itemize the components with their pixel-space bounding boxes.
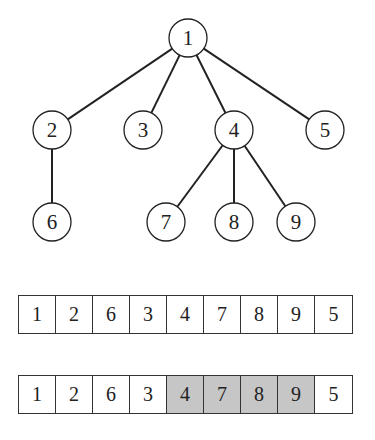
svg-text:1: 1: [183, 26, 194, 50]
array-cell: 9: [278, 376, 315, 413]
array-cell: 5: [315, 296, 352, 333]
array-cell: 3: [130, 296, 167, 333]
array-cell: 6: [93, 376, 130, 413]
tree-node-4: 4: [215, 111, 253, 149]
array-cell: 7: [204, 296, 241, 333]
array-cell: 3: [130, 376, 167, 413]
svg-text:9: 9: [291, 210, 302, 234]
array-cell: 1: [19, 376, 56, 413]
tree-edge: [196, 55, 225, 113]
svg-text:5: 5: [320, 118, 331, 142]
array-cell: 2: [56, 296, 93, 333]
array-cell: 4: [167, 376, 204, 413]
svg-text:3: 3: [138, 118, 149, 142]
tree-node-8: 8: [215, 203, 253, 241]
array-cell: 1: [19, 296, 56, 333]
array-cell: 5: [315, 376, 352, 413]
tree-node-6: 6: [33, 203, 71, 241]
tree-edge: [151, 55, 179, 113]
tree-node-7: 7: [147, 203, 185, 241]
tree-node-1: 1: [169, 19, 207, 57]
array-cell: 6: [93, 296, 130, 333]
array-cell: 9: [278, 296, 315, 333]
svg-text:2: 2: [47, 118, 58, 142]
svg-text:6: 6: [47, 210, 58, 234]
tree-diagram: 123456789: [0, 0, 375, 260]
array-cell: 8: [241, 376, 278, 413]
tree-node-9: 9: [277, 203, 315, 241]
tree-edge: [68, 49, 173, 120]
tree-node-5: 5: [306, 111, 344, 149]
array-cell: 8: [241, 296, 278, 333]
preorder-array-highlighted-subtree: 126347895: [18, 375, 353, 414]
tree-edge: [204, 49, 309, 120]
array-cell: 7: [204, 376, 241, 413]
array-cell: 4: [167, 296, 204, 333]
preorder-array: 126347895: [18, 295, 353, 334]
tree-edge: [245, 146, 286, 206]
tree-node-2: 2: [33, 111, 71, 149]
array-cell: 2: [56, 376, 93, 413]
svg-text:8: 8: [229, 210, 240, 234]
svg-text:7: 7: [161, 210, 172, 234]
tree-node-3: 3: [124, 111, 162, 149]
tree-edge: [177, 145, 222, 206]
svg-text:4: 4: [229, 118, 240, 142]
